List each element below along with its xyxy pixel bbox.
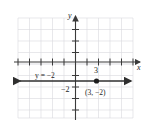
y-axis	[72, 16, 79, 120]
line-equation-label: y = −2	[35, 71, 55, 80]
coordinate-plane-figure: y x 3 −2 y = −2 (3, −2)	[0, 0, 151, 130]
plotted-point	[94, 78, 99, 83]
x-axis	[14, 59, 140, 66]
point-coordinate-label: (3, −2)	[85, 88, 106, 97]
graph-svg: y x 3 −2 y = −2 (3, −2)	[0, 0, 151, 130]
x-tick-label-3: 3	[94, 66, 98, 75]
y-tick-label-neg2: −2	[61, 85, 70, 94]
y-axis-label: y	[67, 11, 72, 20]
x-axis-label: x	[136, 63, 141, 72]
